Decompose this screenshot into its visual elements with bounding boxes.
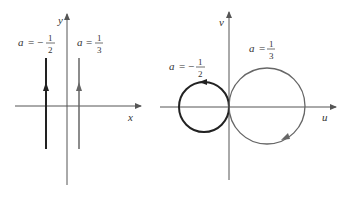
right-plot: u v a = − 1 2 a = 1 3 bbox=[160, 12, 336, 180]
svg-text:1: 1 bbox=[198, 57, 203, 67]
svg-text:2: 2 bbox=[48, 45, 53, 55]
svg-text:3: 3 bbox=[97, 45, 102, 55]
svg-text:a: a bbox=[18, 36, 24, 48]
v-axis-label: v bbox=[219, 16, 224, 28]
svg-text:=: = bbox=[179, 60, 185, 72]
svg-text:2: 2 bbox=[198, 69, 203, 79]
label-a-neg-half: a = − 1 2 bbox=[18, 33, 55, 55]
arrow-up-icon bbox=[76, 82, 82, 91]
arrow-down-left-icon bbox=[281, 133, 290, 140]
svg-text:=: = bbox=[28, 36, 34, 48]
u-axis-label: u bbox=[322, 111, 328, 123]
arrow-left-icon bbox=[199, 79, 207, 85]
svg-text:=: = bbox=[259, 42, 265, 54]
y-axis-label: y bbox=[57, 14, 63, 26]
x-axis-label: x bbox=[127, 111, 133, 123]
svg-text:a: a bbox=[169, 60, 175, 72]
svg-text:a: a bbox=[249, 42, 255, 54]
figure: x y a = − 1 2 a = 1 3 u v bbox=[0, 0, 351, 197]
label-a-third: a = 1 3 bbox=[77, 33, 103, 55]
svg-text:−: − bbox=[188, 60, 194, 72]
svg-text:=: = bbox=[86, 36, 92, 48]
svg-text:3: 3 bbox=[269, 51, 274, 61]
svg-text:1: 1 bbox=[269, 39, 274, 49]
svg-text:a: a bbox=[77, 36, 83, 48]
svg-text:1: 1 bbox=[48, 33, 53, 43]
left-plot: x y a = − 1 2 a = 1 3 bbox=[15, 14, 141, 185]
arrow-up-icon bbox=[43, 82, 49, 91]
label-a-third: a = 1 3 bbox=[249, 39, 275, 61]
label-a-neg-half: a = − 1 2 bbox=[169, 57, 205, 79]
svg-text:1: 1 bbox=[97, 33, 102, 43]
circle-a-third bbox=[229, 68, 305, 144]
svg-text:−: − bbox=[37, 36, 43, 48]
